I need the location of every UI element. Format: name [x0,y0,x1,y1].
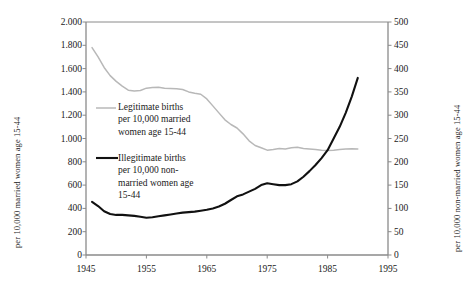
plot-area [0,0,464,291]
legend-label-illegitimate: Illegitimate births per 10,000 non- marr… [118,152,193,202]
plot-frame [86,22,388,255]
legend-label-legitimate: Legitimate births per 10,000 married wom… [118,101,191,138]
legend-swatches [96,108,118,158]
axis-tick-marks [83,22,392,259]
chart-container: per 10,000 married women age 15-44 per 1… [0,0,464,291]
